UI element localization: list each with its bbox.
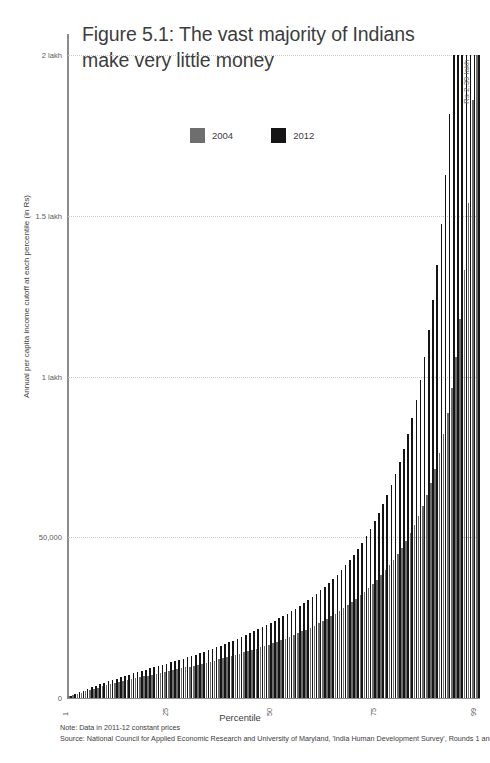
- y-axis-tick: 2 lakh: [42, 51, 62, 60]
- plot-area: [68, 55, 480, 698]
- footnote-source: Source: National Council for Applied Eco…: [60, 733, 490, 744]
- gridline: [68, 377, 480, 378]
- footnote-note: Note: Data in 2011-12 constant prices: [60, 722, 490, 733]
- y-axis-label: Annual per capita income cutoff at each …: [22, 187, 31, 407]
- gridline: [68, 216, 480, 217]
- y-axis-tick: 0: [58, 694, 62, 703]
- y-axis-ticks: 050,0001 lakh1.5 lakh2 lakh: [0, 0, 62, 763]
- y-axis-tick: 1.5 lakh: [35, 211, 62, 220]
- bar-2012-p99: [478, 55, 480, 698]
- peak-value-annotation: Rs 2.39 lakh: [462, 60, 471, 104]
- y-axis-tick: 1 lakh: [42, 372, 62, 381]
- footnotes: Note: Data in 2011-12 constant pricesSou…: [60, 722, 490, 744]
- gridline: [68, 55, 480, 56]
- y-axis-tick: 50,000: [39, 533, 62, 542]
